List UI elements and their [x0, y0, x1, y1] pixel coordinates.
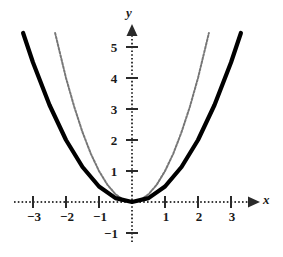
y-tick-label-4: 4	[107, 72, 121, 85]
y-tick-label-3: 3	[107, 103, 121, 116]
x-tick-label-3: 3	[225, 210, 239, 223]
x-tick-label-neg1: −1	[90, 210, 110, 223]
y-tick-label-5: 5	[107, 41, 121, 54]
y-tick-label-2: 2	[107, 134, 121, 147]
y-axis-label: y	[126, 6, 132, 19]
x-tick-label-2: 2	[192, 210, 206, 223]
x-tick-label-neg2: −2	[57, 210, 77, 223]
chart-figure: y x −3 −2 −1 1 2 3 5 4 3 2 1 −1	[0, 0, 283, 257]
y-axis-ticks	[126, 47, 138, 233]
y-tick-label-neg1: −1	[100, 227, 122, 240]
x-axis-label: x	[263, 193, 270, 206]
x-axis-arrowhead	[248, 197, 260, 208]
x-tick-label-neg3: −3	[24, 210, 44, 223]
y-axis-arrowhead	[127, 24, 138, 36]
y-tick-label-1: 1	[107, 165, 121, 178]
x-tick-label-1: 1	[159, 210, 173, 223]
